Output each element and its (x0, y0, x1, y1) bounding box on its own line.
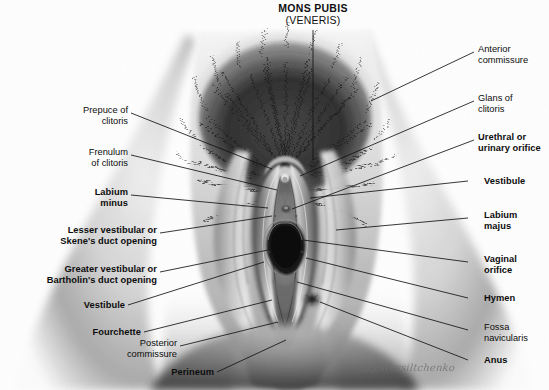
label-line-2: navicularis (484, 333, 548, 344)
label-prepuce-of-clitoris: Prepuce of clitoris (58, 105, 128, 128)
label-line-1: Vestibule (484, 176, 549, 187)
label-line-2: orifice (484, 265, 544, 276)
label-line-2: clitoris (58, 116, 128, 127)
label-greater-vestibular-duct: Greater vestibular or Bartholin's duct o… (10, 264, 157, 287)
anatomy-figure-page: MONS PUBIS (VENERIS) Prepuce of clitoris… (0, 0, 549, 390)
label-line-1: Prepuce of (58, 105, 128, 116)
label-line-1: Frenulum (48, 147, 128, 158)
label-labium-majus: Labium majus (484, 210, 544, 233)
label-vestibule-right: Vestibule (484, 176, 549, 187)
label-line-1: Lesser vestibular or (20, 225, 157, 236)
label-labium-minus: Labium minus (58, 187, 128, 210)
label-fossa-navicularis: Fossa navicularis (484, 322, 548, 345)
label-vestibule-left: Vestibule (58, 300, 125, 311)
label-line-1: Glans of (478, 93, 544, 104)
label-line-1: Labium (484, 210, 544, 221)
label-posterior-commissure: Posterior commissure (100, 338, 177, 361)
label-hymen: Hymen (484, 293, 539, 304)
label-line-2: of clitoris (48, 158, 128, 169)
label-line-2: urinary orifice (478, 143, 549, 154)
label-fourchette: Fourchette (68, 327, 141, 338)
label-lesser-vestibular-duct: Lesser vestibular or Skene's duct openin… (20, 225, 157, 248)
label-line-1: Vaginal (484, 254, 544, 265)
label-perineum: Perineum (145, 367, 214, 378)
label-line-1: Hymen (484, 293, 539, 304)
label-line-1: Fossa (484, 322, 548, 333)
label-line-2: clitoris (478, 104, 544, 115)
figure-title-line1: MONS PUBIS (243, 2, 383, 14)
label-line-2: Skene's duct opening (20, 236, 157, 247)
label-line-1: Fourchette (68, 327, 141, 338)
label-line-1: Perineum (145, 367, 214, 378)
label-line-1: Vestibule (58, 300, 125, 311)
label-anus: Anus (484, 355, 534, 366)
label-frenulum-of-clitoris: Frenulum of clitoris (48, 147, 128, 170)
label-line-2: commissure (478, 55, 548, 66)
label-line-2: Bartholin's duct opening (10, 275, 157, 286)
label-urethral-orifice: Urethral or urinary orifice (478, 132, 549, 155)
label-line-2: commissure (100, 349, 177, 360)
label-line-2: majus (484, 221, 544, 232)
label-line-1: Urethral or (478, 132, 549, 143)
figure-title-line2: (VENERIS) (243, 14, 383, 26)
label-line-1: Anterior (478, 44, 548, 55)
label-line-2: minus (58, 198, 128, 209)
label-vaginal-orifice: Vaginal orifice (484, 254, 544, 277)
label-anterior-commissure: Anterior commissure (478, 44, 548, 67)
artist-signature: G.J.Wassiltchenko (361, 362, 455, 373)
label-line-1: Labium (58, 187, 128, 198)
label-line-1: Anus (484, 355, 534, 366)
figure-title: MONS PUBIS (VENERIS) (243, 2, 383, 27)
label-glans-of-clitoris: Glans of clitoris (478, 93, 544, 116)
label-line-1: Greater vestibular or (10, 264, 157, 275)
label-line-1: Posterior (100, 338, 177, 349)
